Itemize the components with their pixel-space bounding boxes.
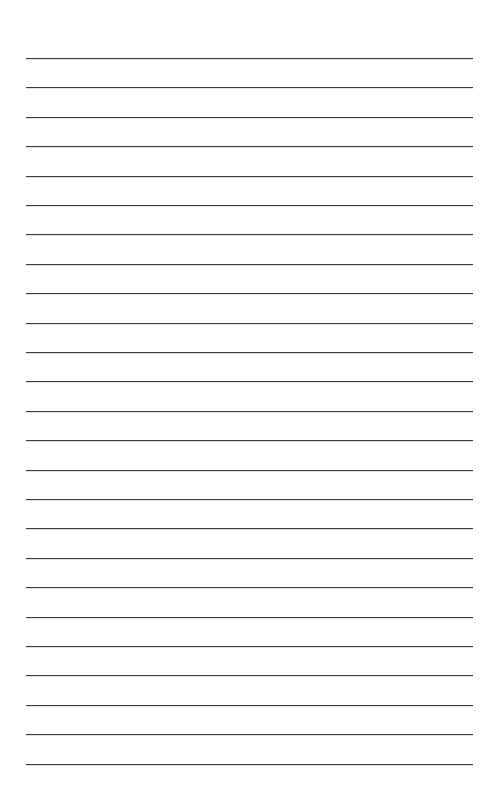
ruled-line bbox=[26, 587, 473, 588]
ruled-line bbox=[26, 146, 473, 147]
ruled-line bbox=[26, 675, 473, 676]
lined-paper-page bbox=[0, 0, 491, 788]
ruled-line bbox=[26, 323, 473, 324]
ruled-line bbox=[26, 470, 473, 471]
ruled-line bbox=[26, 705, 473, 706]
ruled-line bbox=[26, 264, 473, 265]
ruled-line bbox=[26, 234, 473, 235]
ruled-line bbox=[26, 558, 473, 559]
ruled-line bbox=[26, 528, 473, 529]
ruled-line bbox=[26, 734, 473, 735]
ruled-line bbox=[26, 87, 473, 88]
ruled-line bbox=[26, 176, 473, 177]
ruled-line bbox=[26, 411, 473, 412]
ruled-line bbox=[26, 205, 473, 206]
ruled-line bbox=[26, 499, 473, 500]
ruled-line bbox=[26, 646, 473, 647]
ruled-line bbox=[26, 381, 473, 382]
ruled-line bbox=[26, 440, 473, 441]
ruled-line bbox=[26, 352, 473, 353]
ruled-line bbox=[26, 117, 473, 118]
ruled-line bbox=[26, 764, 473, 765]
ruled-line bbox=[26, 293, 473, 294]
ruled-line bbox=[26, 617, 473, 618]
ruled-line bbox=[26, 58, 473, 59]
